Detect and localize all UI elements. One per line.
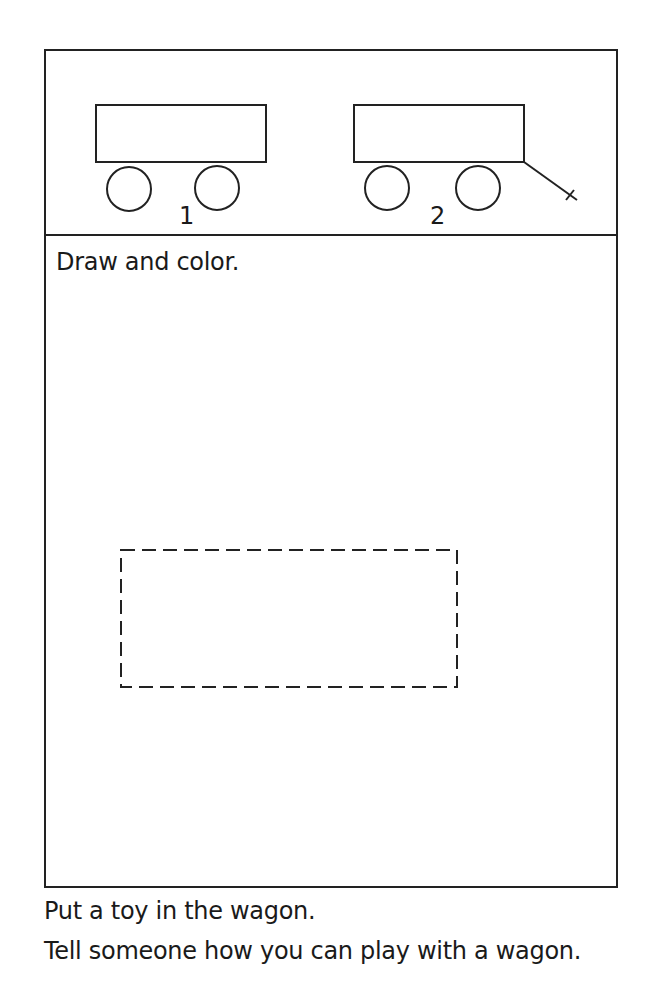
wagon-2-wheel-left [365,166,409,210]
wagon-2-body [354,105,524,162]
footer-line-2: Tell someone how you can play with a wag… [44,936,581,966]
wagon-2-label: 2 [430,204,445,228]
wagon-1-body [96,105,266,162]
wagon-1-label: 1 [179,204,194,228]
wagon-1-drawing [96,105,266,211]
dashed-wagon-outline [121,550,457,687]
wagon-2-drawing [354,105,577,210]
wagon-1-wheel-right [195,166,239,210]
footer-line-1: Put a toy in the wagon. [44,896,315,926]
wagon-2-handle-grip [566,190,574,200]
instruction-text: Draw and color. [56,247,239,277]
wagon-illustrations [0,0,650,991]
wagon-1-wheel-left [107,167,151,211]
wagon-2-handle [524,162,577,200]
wagon-2-wheel-right [456,166,500,210]
